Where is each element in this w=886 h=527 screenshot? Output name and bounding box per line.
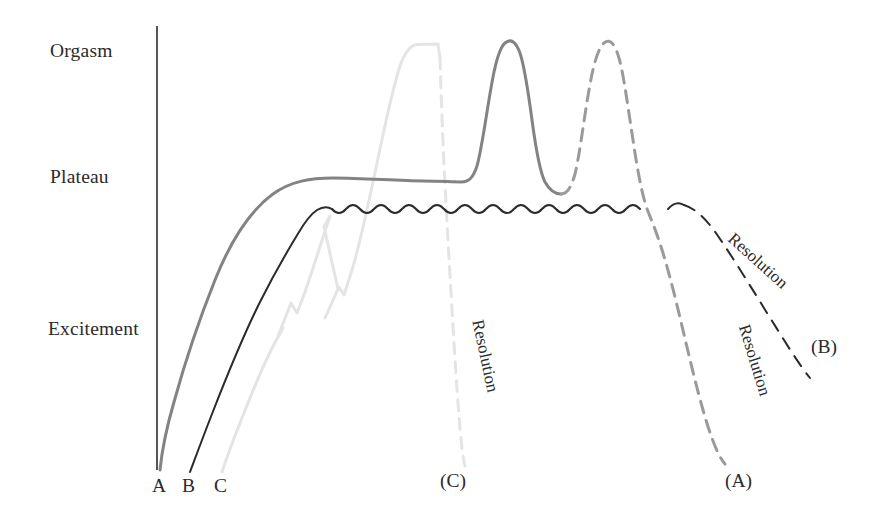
sexual-response-cycle-diagram: Orgasm Plateau Excitement A B C (C) (A) … bbox=[0, 0, 886, 527]
end-label-a: (A) bbox=[725, 470, 752, 492]
curve-c-resolution-dashed bbox=[440, 58, 465, 466]
end-label-c: (C) bbox=[440, 470, 466, 492]
curve-a-solid bbox=[160, 41, 561, 470]
y-label-orgasm: Orgasm bbox=[50, 40, 113, 62]
curve-b-plateau-wave bbox=[332, 205, 640, 213]
curve-c-solid bbox=[222, 44, 440, 472]
curve-c bbox=[222, 44, 465, 472]
x-label-b: B bbox=[182, 475, 195, 497]
curve-b-rise bbox=[190, 207, 332, 472]
end-label-b: (B) bbox=[811, 336, 837, 358]
curve-b-plateau-tail bbox=[668, 203, 684, 209]
curve-a-second-orgasm-dashed bbox=[561, 41, 725, 464]
x-label-a: A bbox=[152, 475, 166, 497]
curve-b bbox=[190, 203, 810, 472]
y-label-plateau: Plateau bbox=[50, 166, 109, 188]
x-label-c: C bbox=[214, 475, 227, 497]
y-label-excitement: Excitement bbox=[48, 318, 139, 340]
